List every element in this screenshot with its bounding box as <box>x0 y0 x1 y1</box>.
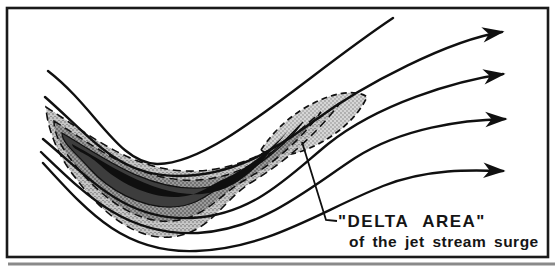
delta-area-label-title: "DELTA AREA" <box>338 212 486 232</box>
figure-page: "DELTA AREA" of the jet stream surge <box>0 0 555 268</box>
delta-area-label-subtitle: of the jet stream surge <box>349 233 539 251</box>
